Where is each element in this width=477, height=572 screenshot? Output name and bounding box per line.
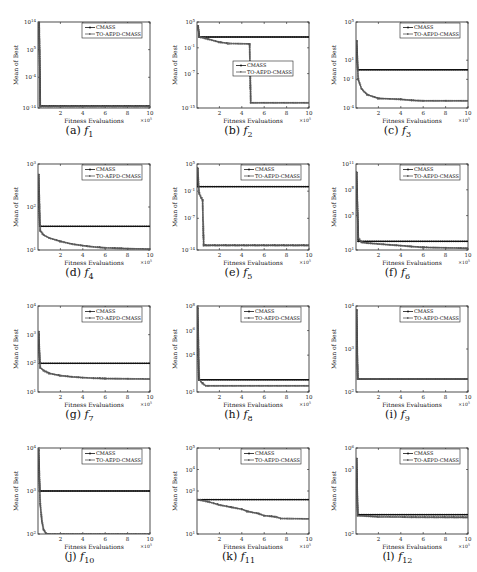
legend-label-to-aepd-cmass: TO-AEPD-CMASS (96, 315, 142, 321)
chart-caption: (b) f2 (159, 124, 318, 139)
y-tick-label: 10-1 (184, 43, 195, 51)
x-tick-label: 2 (377, 252, 381, 258)
x-tick-label: 10 (306, 110, 313, 116)
line-chart: 246810×105Fitness Evaluations104103102Me… (0, 426, 159, 551)
x-tick-label: 2 (59, 394, 63, 400)
caption-function: f7 (84, 408, 93, 421)
legend-label-to-aepd-cmass: TO-AEPD-CMASS (255, 457, 301, 463)
y-tick-label: 10-1 (184, 187, 195, 195)
y-tick-label: 1011 (342, 160, 354, 168)
figure-grid: 246810×105Fitness Evaluations101410510-4… (0, 0, 477, 572)
x-multiplier: ×105 (140, 259, 152, 265)
y-tick-label: 104 (26, 302, 36, 310)
x-tick-label: 8 (126, 394, 130, 400)
legend-label-to-aepd-cmass: TO-AEPD-CMASS (255, 173, 301, 179)
x-tick-label: 8 (285, 110, 289, 116)
x-tick-label: 2 (59, 536, 63, 542)
x-tick-label: 10 (465, 110, 472, 116)
caption-letter: (j) (65, 550, 81, 563)
y-tick-label: 101 (26, 388, 36, 396)
x-multiplier: ×105 (140, 543, 152, 549)
series-cmass-markers (196, 499, 310, 501)
legend: CMASSTO-AEPD-CMASS (233, 61, 293, 76)
chart-caption: (h) f8 (159, 408, 318, 423)
x-tick-label: 2 (377, 110, 381, 116)
chart-panel-d: 246810×105Fitness Evaluations103102101Me… (0, 142, 159, 285)
line-chart: 246810×105Fitness Evaluations101410510-4… (0, 0, 159, 125)
chart-panel-i: 246810×105Fitness Evaluations104103102Me… (318, 284, 477, 427)
x-tick-label: 2 (59, 110, 63, 116)
caption-function: f3 (402, 124, 411, 137)
y-tick-label: 105 (344, 211, 354, 219)
x-tick-label: 6 (103, 252, 107, 258)
legend-label-cmass: CMASS (255, 308, 275, 314)
x-tick-label: 6 (262, 536, 266, 542)
x-tick-label: 6 (262, 110, 266, 116)
legend: CMASSTO-AEPD-CMASS (82, 23, 142, 38)
y-tick-label: 105 (185, 160, 195, 168)
y-tick-label: 10-15 (182, 104, 196, 112)
y-axis-label: Mean of Best (171, 328, 178, 369)
y-tick-label: 101 (26, 246, 36, 254)
y-tick-label: 10-14 (182, 246, 196, 254)
x-tick-label: 10 (147, 110, 154, 116)
caption-letter: (d) (65, 266, 84, 279)
x-tick-label: 6 (103, 536, 107, 542)
y-axis-label: Mean of Best (12, 328, 19, 369)
legend: CMASSTO-AEPD-CMASS (241, 449, 301, 464)
caption-function: f6 (401, 266, 410, 279)
x-multiplier: ×105 (299, 259, 311, 265)
caption-function: f9 (401, 408, 410, 421)
x-tick-label: 4 (240, 394, 244, 400)
legend-label-cmass: CMASS (414, 308, 434, 314)
x-tick-label: 8 (126, 110, 130, 116)
x-tick-label: 10 (465, 252, 472, 258)
legend: CMASSTO-AEPD-CMASS (400, 449, 460, 464)
y-tick-label: 102 (26, 359, 36, 367)
y-tick-label: 102 (26, 203, 36, 211)
line-chart: 246810×105Fitness Evaluations10111081051… (318, 142, 477, 267)
y-axis-label: Mean of Best (12, 470, 19, 511)
caption-letter: (b) (224, 124, 243, 137)
y-tick-label: 104 (185, 351, 195, 359)
y-tick-label: 105 (26, 45, 36, 53)
y-axis-label: Mean of Best (330, 328, 337, 369)
line-chart: 246810×105Fitness Evaluations106105102Me… (318, 426, 477, 551)
chart-panel-c: 246810×105Fitness Evaluations10510110-11… (318, 0, 477, 143)
caption-letter: (c) (384, 124, 402, 137)
line-chart: 246810×105Fitness Evaluations10410310210… (0, 284, 159, 409)
x-tick-label: 4 (399, 536, 403, 542)
y-tick-label: 108 (344, 185, 354, 193)
chart-caption: (k) f11 (159, 550, 318, 565)
x-tick-label: 10 (147, 252, 154, 258)
chart-caption: (i) f9 (318, 408, 477, 423)
x-multiplier: ×105 (458, 259, 470, 265)
legend-label-to-aepd-cmass: TO-AEPD-CMASS (96, 173, 142, 179)
x-tick-label: 8 (444, 110, 448, 116)
x-tick-label: 8 (126, 536, 130, 542)
x-axis-label: Fitness Evaluations (64, 543, 124, 550)
y-tick-label: 101 (344, 246, 354, 254)
legend-label-to-aepd-cmass: TO-AEPD-CMASS (96, 31, 142, 37)
y-axis-label: Mean of Best (12, 44, 19, 85)
y-axis-label: Mean of Best (171, 186, 178, 227)
legend-label-to-aepd-cmass: TO-AEPD-CMASS (414, 173, 460, 179)
y-tick-label: 102 (26, 530, 36, 538)
legend-label-cmass: CMASS (96, 166, 116, 172)
x-tick-label: 10 (465, 536, 472, 542)
x-tick-label: 6 (421, 110, 425, 116)
x-tick-label: 2 (59, 252, 63, 258)
chart-caption: (f) f6 (318, 266, 477, 281)
x-tick-label: 4 (240, 110, 244, 116)
x-tick-label: 6 (421, 536, 425, 542)
y-tick-label: 106 (344, 444, 354, 452)
legend: CMASSTO-AEPD-CMASS (400, 23, 460, 38)
x-tick-label: 10 (147, 394, 154, 400)
legend-label-to-aepd-cmass: TO-AEPD-CMASS (247, 69, 293, 75)
x-tick-label: 10 (306, 536, 313, 542)
y-tick-label: 10-1 (343, 75, 354, 83)
legend-label-cmass: CMASS (96, 450, 116, 456)
x-tick-label: 2 (377, 394, 381, 400)
legend: CMASSTO-AEPD-CMASS (400, 165, 460, 180)
x-tick-label: 6 (262, 252, 266, 258)
